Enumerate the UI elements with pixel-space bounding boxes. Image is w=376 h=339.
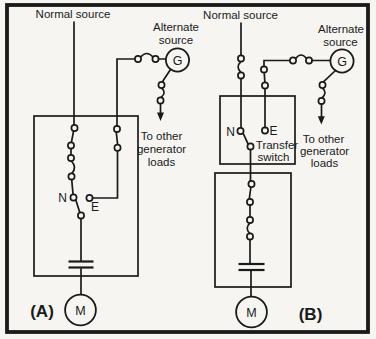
disconnect-switch-contact-b (261, 66, 267, 72)
e-contact-label-a: E (91, 200, 99, 214)
circuit-breaker-arc-a (71, 161, 74, 174)
circuit-breaker-contact-b (306, 57, 312, 63)
disconnect-switch-contact-b (248, 181, 254, 187)
generator-loads-label-b: generator (300, 145, 349, 157)
circuit-breaker-contact-a (158, 82, 164, 88)
n-contact-label-b: N (226, 125, 235, 139)
circuit-breaker-arc-b (322, 88, 325, 98)
circuit-breaker-contact-a (157, 97, 163, 103)
transfer-switch-blade-b (243, 134, 248, 144)
circuit-breaker-arc-b (247, 223, 250, 233)
circuit-breaker-arc-a (161, 88, 164, 97)
disconnect-switch-contact-a (68, 142, 74, 148)
generator-letter-b: G (337, 55, 347, 69)
circuit-breaker-contact-a (152, 56, 158, 62)
n-contact-a (70, 194, 76, 200)
generator-loads-label-b: loads (311, 157, 339, 169)
down-arrow-icon-a (157, 113, 164, 121)
generator-loads-label-b: To other (303, 133, 345, 145)
alternate-source-label-a: source (159, 34, 194, 46)
panel-a: Normal source N E G (30, 8, 199, 325)
panel-b: Normal source N E Transfer switch G Alte… (203, 9, 364, 327)
disconnect-switch-blade-a (71, 131, 73, 142)
circuit-breaker-arc-b (296, 55, 307, 59)
disconnect-switch-contact-b (262, 82, 268, 88)
circuit-breaker-arc-a (141, 54, 153, 58)
e-contact-b (262, 127, 268, 133)
circuit-breaker-contact-b (238, 72, 244, 78)
disconnect-switch-contact-a (71, 125, 77, 131)
transfer-switch-blade-a (76, 200, 80, 213)
panel-label-b: (B) (299, 305, 323, 324)
alternate-source-label-b: source (323, 36, 358, 48)
disconnect-switch-contact-a (114, 145, 120, 151)
schematic-figure: Normal source N E G (0, 0, 376, 339)
disconnect-switch-blade-a (116, 132, 117, 144)
circuit-breaker-contact-b (290, 57, 296, 63)
motor-letter-a: M (75, 304, 85, 318)
e-contact-label-b: E (270, 124, 278, 138)
circuit-breaker-contact-b (238, 55, 244, 61)
panel-label-a: (A) (30, 302, 54, 321)
circuit-breaker-arc-b (238, 62, 241, 73)
alternate-source-label-a: Alternate (153, 21, 199, 33)
disconnect-switch-contact-a (114, 126, 120, 132)
disconnect-switch-blade-b (249, 187, 251, 199)
wire-to-alternate-b (264, 61, 290, 67)
normal-source-label-a: Normal source (36, 8, 111, 20)
circuit-breaker-contact-a (68, 173, 74, 179)
disconnect-switch-blade-b (264, 73, 265, 83)
switchboard-box-a (34, 116, 138, 276)
wire-emergency-branch-a (93, 151, 118, 198)
transfer-switch-label-b: switch (258, 151, 290, 163)
circuit-breaker-contact-a (68, 155, 74, 161)
normal-source-label-b: Normal source (203, 9, 278, 21)
circuit-breaker-contact-b (318, 98, 324, 104)
transfer-pivot-contact-b (247, 143, 253, 149)
generator-loads-label-a: loads (148, 156, 176, 168)
alternate-source-label-b: Alternate (318, 23, 364, 35)
circuit-breaker-contact-b (247, 217, 253, 223)
generator-letter-a: G (173, 54, 183, 68)
down-arrow-icon-b (318, 116, 325, 124)
wire-b (323, 71, 335, 82)
transfer-switch-label-b: Transfer (256, 139, 299, 151)
n-contact-label-a: N (58, 191, 67, 205)
circuit-breaker-contact-b (247, 233, 253, 239)
wire-a (72, 180, 73, 194)
n-contact-b (237, 128, 243, 134)
generator-loads-label-a: To other (141, 130, 183, 142)
transfer-pivot-contact-a (78, 212, 84, 218)
motor-letter-b: M (246, 306, 256, 320)
circuit-breaker-contact-b (319, 82, 325, 88)
circuit-breaker-contact-a (135, 56, 141, 62)
wire-a (162, 70, 170, 82)
generator-loads-label-a: generator (137, 143, 186, 155)
transfer-switch-diagram: Normal source N E G (0, 0, 376, 339)
disconnect-switch-contact-b (247, 199, 253, 205)
